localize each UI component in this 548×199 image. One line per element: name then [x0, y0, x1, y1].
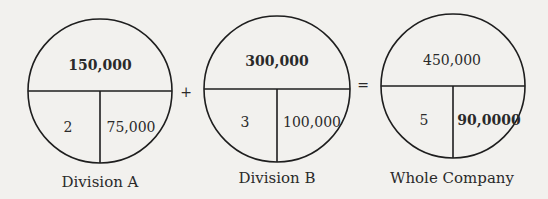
top-value: 450,000 [423, 52, 481, 68]
bottom-right-value: 100,000 [283, 114, 341, 130]
bottom-left-value: 3 [241, 114, 250, 130]
bottom-right-value: 75,000 [107, 119, 156, 135]
top-value: 150,000 [68, 57, 132, 73]
circle-division-a: 150,000 2 75,000 Division A [28, 19, 172, 191]
bottom-right-value: 90,0000 [457, 112, 521, 128]
bottom-left-value: 2 [64, 119, 73, 135]
diagram-canvas: 150,000 2 75,000 Division A + 300,000 3 … [0, 0, 548, 199]
circle-whole-company: 450,000 5 90,0000 Whole Company [381, 14, 525, 187]
circle-label: Whole Company [390, 169, 514, 187]
bottom-left-value: 5 [420, 112, 429, 128]
circle-label: Division B [238, 169, 315, 187]
circle-division-b: 300,000 3 100,000 Division B [204, 16, 350, 187]
plus-operator: + [180, 84, 192, 100]
equals-operator: = [357, 77, 369, 93]
top-value: 300,000 [245, 53, 309, 69]
circle-label: Division A [62, 173, 139, 191]
